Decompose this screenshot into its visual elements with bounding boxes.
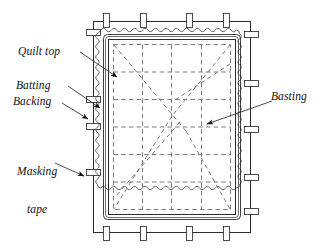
masking-tape-tab xyxy=(245,81,259,87)
masking-tape-tab xyxy=(187,227,193,241)
label-backing: Backing xyxy=(13,95,51,108)
leader-line-masking-tape xyxy=(55,163,84,176)
label-masking-tape: Masking tape xyxy=(17,140,57,240)
masking-tape-tab xyxy=(224,14,230,28)
leader-line-quilt-top xyxy=(80,52,117,77)
masking-tape-tab xyxy=(187,14,193,28)
masking-tape-tab xyxy=(245,209,259,215)
basting-grid xyxy=(114,45,231,210)
basting-diagonal xyxy=(186,131,230,209)
basting-diagonal xyxy=(114,45,186,131)
masking-tape-tab xyxy=(224,227,230,241)
label-masking-tape-line1: Masking xyxy=(17,165,57,178)
masking-tape-tab xyxy=(141,14,147,28)
basting-diagonal xyxy=(116,122,180,196)
masking-tape-tab xyxy=(245,175,259,181)
basting-diagonal xyxy=(175,64,230,100)
masking-tape-tab xyxy=(245,127,259,133)
leader-line-backing xyxy=(62,103,88,119)
label-masking-tape-line2: tape xyxy=(17,203,57,216)
masking-tape-tab xyxy=(104,227,110,241)
quilt-frame-diagram: Quilt top Batting Backing Masking tape B… xyxy=(0,0,321,250)
masking-tape-tab xyxy=(141,227,147,241)
label-basting: Basting xyxy=(271,90,307,103)
masking-tape-tab xyxy=(245,32,259,38)
leader-line-basting xyxy=(207,101,272,124)
backing-edge xyxy=(96,28,242,189)
label-batting: Batting xyxy=(16,79,51,92)
label-quilt-top: Quilt top xyxy=(18,45,60,58)
masking-tape-tab xyxy=(104,14,110,28)
masking-tape-tabs xyxy=(87,14,259,241)
